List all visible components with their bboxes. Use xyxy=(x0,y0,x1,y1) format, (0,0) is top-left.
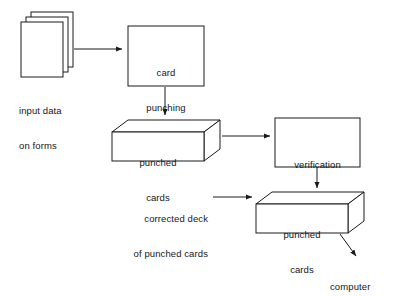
verification-label: verification xyxy=(275,136,360,194)
corrected-deck-line2: of punched cards xyxy=(108,248,208,260)
computer-label: computer xyxy=(330,258,399,296)
corrected-deck-line1: corrected deck xyxy=(108,213,208,225)
punched-cards-1-label-line1: punched xyxy=(112,157,204,169)
stacked-documents-icon xyxy=(21,12,73,77)
computer-label-text: computer xyxy=(330,281,399,293)
corrected-deck-annotation: corrected deck of punched cards xyxy=(108,190,208,282)
verification-label-text: verification xyxy=(275,159,360,171)
card-punching-label-line2: punching xyxy=(128,102,204,114)
card-punching-label: card punching xyxy=(128,44,204,136)
punched-cards-2-label-line1: punched xyxy=(256,229,348,241)
input-forms-label-line1: input data xyxy=(19,105,119,117)
card-punching-label-line1: card xyxy=(128,67,204,79)
input-forms-label-line2: on forms xyxy=(19,140,119,152)
input-forms-label: input data on forms xyxy=(19,82,119,174)
